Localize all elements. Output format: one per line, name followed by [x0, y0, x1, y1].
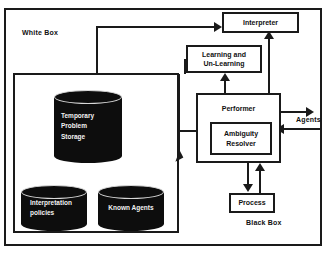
ambiguity-resolver-label: Ambiguity Resolver	[224, 129, 258, 148]
white-box-label: White Box	[22, 29, 58, 36]
temp-line-2: Problem	[61, 121, 87, 131]
policies-line-1: Interpretation	[30, 198, 72, 208]
agents-label: Agents	[296, 116, 321, 123]
interpretation-policies-label: Interpretation policies	[21, 185, 87, 231]
performer-label: Performer	[198, 104, 279, 113]
temporary-problem-storage-cylinder[interactable]: Temporary Problem Storage	[54, 90, 122, 163]
performer-box[interactable]: Performer Ambiguity Resolver	[196, 93, 281, 163]
learning-unlearning-box[interactable]: Learning and Un-Learning	[186, 45, 262, 73]
arrowhead-to-performer	[255, 163, 265, 171]
connector-performer-to-process	[247, 163, 249, 185]
ambiguity-line-2: Resolver	[226, 140, 256, 147]
arrowhead-to-process	[243, 184, 253, 192]
known-agents-cylinder[interactable]: Known Agents	[98, 185, 164, 231]
interpreter-box[interactable]: Interpreter	[222, 12, 299, 33]
temp-line-1: Temporary	[61, 111, 94, 121]
interpretation-policies-cylinder[interactable]: Interpretation policies	[21, 185, 87, 231]
arrowhead-to-agents	[306, 107, 314, 117]
connector-store-to-interpreter-vertical	[96, 26, 98, 74]
learning-line-1: Learning and	[202, 51, 246, 58]
process-label: Process	[238, 198, 265, 207]
connector-agents-to-ambiguity	[283, 128, 320, 130]
temp-line-3: Storage	[61, 132, 85, 142]
known-agents-label: Known Agents	[98, 185, 164, 231]
arrowhead-to-learning	[220, 73, 230, 81]
black-box-label: Black Box	[246, 219, 282, 226]
ambiguity-resolver-box[interactable]: Ambiguity Resolver	[210, 122, 272, 155]
temporary-problem-storage-label: Temporary Problem Storage	[54, 90, 122, 163]
connector-learning-right	[178, 130, 196, 132]
learning-line-2: Un-Learning	[203, 60, 244, 67]
known-agents-line-1: Known Agents	[108, 203, 153, 213]
connector-performer-to-interpreter	[268, 38, 270, 95]
connector-store-to-interpreter-horizontal	[96, 26, 215, 28]
interpreter-label: Interpreter	[243, 18, 278, 27]
ambiguity-line-1: Ambiguity	[224, 130, 258, 137]
connector-learning-down-b	[178, 74, 180, 130]
connector-performer-to-agents	[281, 111, 308, 113]
diagram-canvas: White Box Black Box Agents Interpreter L…	[0, 0, 331, 253]
connector-process-to-performer	[259, 170, 261, 194]
policies-line-2: policies	[30, 208, 54, 218]
process-box[interactable]: Process	[229, 193, 275, 213]
arrowhead-to-interpreter	[214, 22, 222, 32]
learning-unlearning-label: Learning and Un-Learning	[202, 50, 246, 69]
